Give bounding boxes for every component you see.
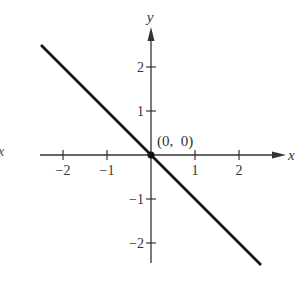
y-axis-arrow: [148, 27, 155, 41]
y-tick-label: −1: [129, 192, 144, 207]
x-axis-arrow: [272, 152, 286, 159]
x-tick-label: 1: [192, 163, 199, 178]
point-label: (0, 0): [157, 133, 193, 150]
x-axis-label: x: [287, 147, 295, 163]
chart-svg: x y x −2−112 21−1−2 (0, 0): [0, 0, 307, 291]
y-tick-label: 1: [137, 104, 144, 119]
y-tick-label: 2: [137, 60, 144, 75]
x-tick-label: 2: [236, 163, 243, 178]
x-tick-label: −1: [100, 163, 115, 178]
stray-x-label: x: [0, 144, 5, 159]
origin-point: [148, 152, 155, 159]
y-axis-label: y: [145, 9, 154, 25]
y-tick-label: −2: [129, 236, 144, 251]
chart: x y x −2−112 21−1−2 (0, 0): [0, 0, 307, 291]
x-tick-label: −2: [56, 163, 71, 178]
